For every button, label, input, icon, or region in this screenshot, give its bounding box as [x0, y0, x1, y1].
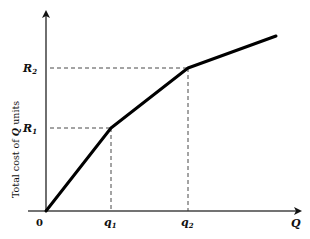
total-cost-line [46, 36, 276, 211]
cost-diagram: Total cost of Q units R2 R1 0 q1 q2 Q [0, 0, 310, 239]
q1-label: q1 [104, 216, 117, 230]
guide-lines [50, 68, 188, 211]
origin-label: 0 [36, 217, 43, 228]
r1-label: R1 [22, 122, 37, 136]
q2-label: q2 [181, 216, 194, 230]
y-axis-title: Total cost of Q units [10, 101, 21, 198]
r2-label: R2 [22, 62, 37, 76]
x-axis-title: Q [291, 217, 301, 230]
